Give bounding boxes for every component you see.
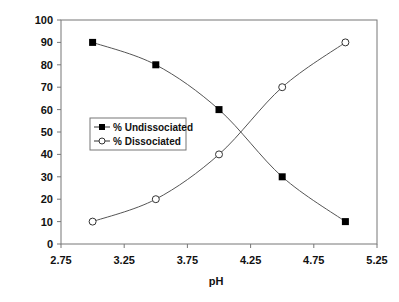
y-axis: 0102030405060708090100 (35, 14, 61, 250)
data-point-dissociated (216, 151, 223, 158)
x-axis: 2.753.253.754.254.755.25 (50, 244, 387, 266)
data-point-undissociated (152, 61, 159, 68)
y-tick-label: 40 (41, 148, 53, 160)
y-tick-label: 60 (41, 104, 53, 116)
y-tick-label: 70 (41, 81, 53, 93)
data-point-dissociated (89, 218, 96, 225)
data-point-dissociated (152, 196, 159, 203)
data-point-undissociated (279, 173, 286, 180)
y-tick-label: 30 (41, 171, 53, 183)
y-tick-label: 80 (41, 59, 53, 71)
legend-label-dissociated: % Dissociated (113, 136, 181, 147)
x-tick-label: 5.25 (366, 254, 387, 266)
data-point-undissociated (89, 39, 96, 46)
y-tick-label: 20 (41, 193, 53, 205)
chart: 0102030405060708090100 2.753.253.754.254… (0, 0, 399, 302)
x-tick-label: 3.75 (177, 254, 198, 266)
y-tick-label: 100 (35, 14, 53, 26)
y-tick-label: 90 (41, 36, 53, 48)
legend-label-undissociated: % Undissociated (113, 122, 193, 133)
legend-marker-circle-icon (99, 138, 105, 144)
y-tick-label: 0 (47, 238, 53, 250)
x-tick-label: 4.25 (240, 254, 261, 266)
x-tick-label: 3.25 (113, 254, 134, 266)
x-tick-label: 2.75 (50, 254, 71, 266)
legend: % Undissociated % Dissociated (90, 118, 193, 150)
data-point-dissociated (342, 39, 349, 46)
data-point-dissociated (279, 84, 286, 91)
y-tick-label: 10 (41, 216, 53, 228)
x-axis-title: pH (209, 275, 224, 287)
legend-marker-square-icon (99, 124, 105, 130)
x-tick-label: 4.75 (303, 254, 324, 266)
y-tick-label: 50 (41, 126, 53, 138)
data-point-undissociated (342, 218, 349, 225)
data-point-undissociated (216, 106, 223, 113)
